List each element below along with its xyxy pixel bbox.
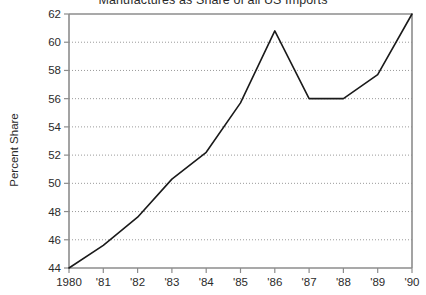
y-tick-label: 52 [48, 149, 61, 161]
y-tick-label: 44 [48, 262, 61, 274]
y-tick-label: 48 [48, 206, 61, 218]
x-tick-label: '89 [370, 276, 385, 288]
chart-figure: Manufactures as Share of all US Imports … [0, 0, 426, 295]
data-series-line [69, 14, 412, 268]
y-tick-label: 58 [48, 64, 61, 76]
line-chart-plot: 44464850525456586062 1980'81'82'83'84'85… [0, 0, 426, 295]
gridlines [69, 42, 412, 240]
y-tick-label: 62 [48, 8, 61, 20]
x-tick-label: 1980 [56, 276, 82, 288]
y-tick-label: 60 [48, 36, 61, 48]
y-tick-label: 46 [48, 234, 61, 246]
x-tick-label: '87 [302, 276, 317, 288]
x-axis-tick-labels: 1980'81'82'83'84'85'86'87'88'89'90 [56, 276, 419, 288]
y-tick-label: 56 [48, 93, 61, 105]
x-tick-label: '82 [130, 276, 145, 288]
x-tick-label: '88 [336, 276, 351, 288]
x-tick-label: '90 [405, 276, 420, 288]
x-tick-label: '86 [267, 276, 282, 288]
y-tick-label: 50 [48, 177, 61, 189]
x-tick-label: '81 [96, 276, 111, 288]
y-tick-label: 54 [48, 121, 61, 133]
y-axis-title: Percent Share [8, 113, 20, 187]
x-tick-label: '85 [233, 276, 248, 288]
plot-frame [69, 14, 412, 268]
y-axis-tick-labels: 44464850525456586062 [48, 8, 61, 274]
x-tick-label: '83 [164, 276, 179, 288]
x-tick-label: '84 [199, 276, 215, 288]
